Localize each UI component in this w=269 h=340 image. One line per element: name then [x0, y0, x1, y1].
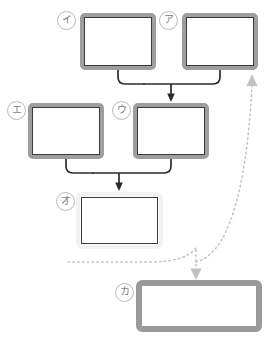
tag-u: ウ [112, 101, 131, 120]
node-e[interactable] [28, 103, 104, 159]
tag-ka: カ [115, 283, 134, 302]
node-a-inner [186, 17, 254, 66]
tag-i: イ [57, 11, 76, 30]
connector-feedback-to-ka [68, 248, 202, 280]
node-u[interactable] [133, 103, 209, 159]
tag-e: エ [7, 101, 26, 120]
tag-a: ア [159, 11, 178, 30]
node-o[interactable] [76, 192, 163, 249]
connector-merge-top [118, 70, 220, 102]
tag-o: オ [56, 192, 75, 211]
node-i[interactable] [80, 13, 156, 70]
node-u-inner [137, 107, 205, 155]
node-e-inner [32, 107, 100, 155]
connector-merge-middle [66, 159, 171, 191]
node-o-inner [81, 197, 158, 244]
flowchart-diagram: イ ア エ ウ オ カ [0, 0, 269, 340]
node-i-inner [84, 17, 152, 66]
node-a[interactable] [182, 13, 258, 70]
node-ka[interactable] [136, 280, 262, 332]
